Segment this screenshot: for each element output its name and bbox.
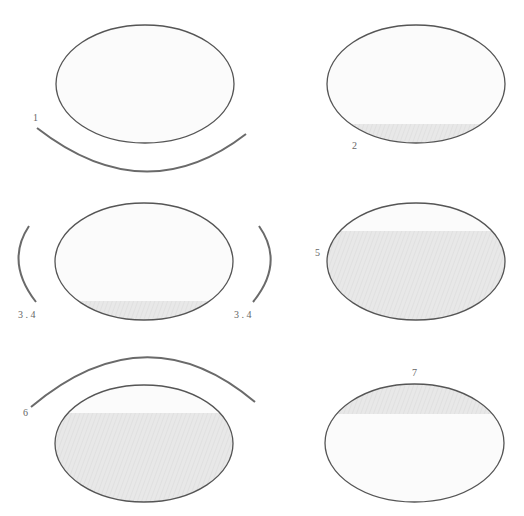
- panel-1: 1: [33, 25, 246, 172]
- shade-5-main: [320, 231, 520, 326]
- shade-6-main: [50, 413, 250, 508]
- panel-5: 5: [315, 203, 520, 326]
- label-2: 2: [352, 140, 357, 151]
- label-3-4-right: 3 . 4: [234, 309, 252, 320]
- label-7: 7: [412, 367, 417, 378]
- panel-3-4: 3 . 4 3 . 4: [18, 203, 271, 326]
- shade-2-bottom: [320, 124, 520, 154]
- label-1: 1: [33, 112, 38, 123]
- panel-6: 6: [23, 357, 255, 508]
- label-6: 6: [23, 407, 28, 418]
- ellipse-1: [56, 25, 234, 143]
- arc-3-4-left: [19, 226, 36, 302]
- shade-3-4-bottom: [50, 301, 250, 326]
- diagram-canvas: 1 2 3 . 4 3 . 4 5 6 7: [0, 0, 524, 516]
- shade-7-top: [320, 380, 520, 414]
- label-3-4-left: 3 . 4: [18, 309, 36, 320]
- label-5: 5: [315, 247, 320, 258]
- panel-7: 7: [320, 367, 520, 502]
- arc-3-4-right: [253, 226, 271, 302]
- panel-2: 2: [320, 25, 520, 154]
